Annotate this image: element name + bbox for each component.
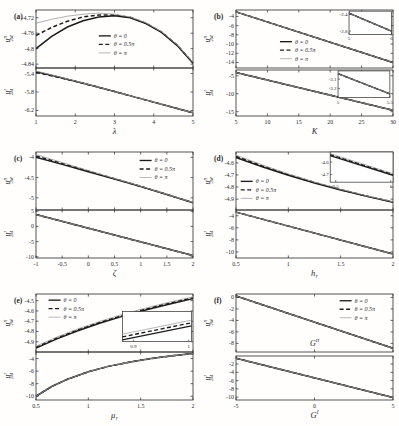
tick-label: 1 bbox=[87, 403, 90, 409]
tick-label: 5 bbox=[192, 119, 195, 125]
tick-label: -4.5 bbox=[25, 298, 35, 304]
legend-label: θ = 0 bbox=[64, 297, 77, 303]
tick-label: -4.6 bbox=[25, 308, 35, 314]
series-solid bbox=[36, 354, 193, 397]
subplot: -2-4-6-8-10-505uI2MGI bbox=[203, 356, 395, 420]
tick-label: -10 bbox=[226, 91, 234, 97]
axis-label: μr bbox=[110, 410, 119, 422]
tick-label: 0.5 bbox=[333, 184, 340, 189]
tick-label: 15 bbox=[296, 119, 302, 125]
tick-label: 2 bbox=[392, 261, 395, 267]
tick-label: 0.5 bbox=[232, 261, 240, 267]
tick-label: -0.5 bbox=[57, 261, 67, 267]
tick-label: -6 bbox=[229, 225, 234, 231]
tick-label: -2.8 bbox=[340, 29, 348, 34]
tick-label: -8 bbox=[229, 237, 234, 243]
panel-e: -4.5-4.6-4.7-4.8-4.9uII2M0.91θ = 0θ = 0.… bbox=[0, 284, 199, 426]
tick-label: -6 bbox=[229, 329, 234, 335]
panel-d-svg: -4.6-4.7-4.8-4.9uII2M0.51-4.6-4.7θ = 0θ … bbox=[200, 142, 399, 284]
tick-label: 0.5 bbox=[111, 261, 119, 267]
axis-label: hr bbox=[311, 268, 319, 280]
series-thin bbox=[36, 215, 193, 256]
legend-label: θ = 0.5π bbox=[114, 41, 135, 47]
subplot: -4-4.5-5uII2Mθ = 0θ = 0.5πθ = π bbox=[3, 152, 193, 210]
tick-label: 20 bbox=[327, 119, 333, 125]
legend: θ = 0θ = 0.5πθ = π bbox=[340, 298, 376, 321]
legend: θ = 0θ = 0.5πθ = π bbox=[140, 157, 176, 180]
tick-label: -2.4 bbox=[340, 12, 348, 17]
panel-a-svg: -4.72-4.76-4.8-4.84uII2Mθ = 0θ = 0.5πθ =… bbox=[0, 0, 199, 142]
tick-label: -10 bbox=[226, 394, 234, 400]
tick-label: 1.5 bbox=[163, 261, 171, 267]
legend-label: θ = 0 bbox=[155, 157, 168, 163]
panel-f-svg: 0-2-4-6-8uII2Mθ = 0θ = 0.5πθ = πGII-2-4-… bbox=[200, 284, 399, 426]
tick-label: -4.5 bbox=[25, 175, 35, 181]
panel-a: -4.72-4.76-4.8-4.84uII2Mθ = 0θ = 0.5πθ =… bbox=[0, 0, 199, 142]
tick-label: 30 bbox=[390, 119, 396, 125]
tick-label: 2 bbox=[192, 403, 195, 409]
tick-label: -4 bbox=[229, 13, 234, 19]
legend-label: θ = π bbox=[256, 195, 270, 201]
panel-c-svg: -4-4.5-5uII2Mθ = 0θ = 0.5πθ = π50-5-10-1… bbox=[0, 142, 199, 284]
tick-label: 5 bbox=[392, 403, 395, 409]
legend: θ = 0θ = 0.5πθ = π bbox=[241, 178, 277, 201]
tick-label: 5 bbox=[235, 119, 238, 125]
tick-label: -3.1 bbox=[329, 77, 337, 82]
tick-label: -5 bbox=[29, 195, 34, 201]
tick-label: -4.8 bbox=[25, 46, 35, 52]
tick-label: 1 bbox=[390, 184, 393, 189]
axis-label: ζ bbox=[113, 268, 117, 278]
legend: θ = 0θ = 0.5πθ = π bbox=[49, 297, 85, 320]
tick-label: -4.7 bbox=[225, 172, 235, 178]
tick-label: 5 bbox=[348, 36, 351, 41]
legend-label: θ = π bbox=[155, 174, 169, 180]
axis-label: uI2M bbox=[203, 374, 215, 381]
tick-label: -4.8 bbox=[225, 184, 235, 190]
tick-label: 0 bbox=[31, 223, 34, 229]
subplot: 0-2-4-6-8uII2Mθ = 0θ = 0.5πθ = πGII bbox=[203, 294, 393, 352]
tick-label: -4 bbox=[29, 356, 34, 362]
panel-b-svg: -4-6-8-10-12-14uII2M56-2.4-2.8θ = 0θ = 0… bbox=[200, 0, 399, 142]
tick-label: -6 bbox=[229, 378, 234, 384]
tick-label: 0 bbox=[87, 261, 90, 267]
tick-label: -8 bbox=[29, 381, 34, 387]
tick-label: -10 bbox=[226, 249, 234, 255]
tick-label: -15 bbox=[226, 109, 234, 115]
plot-frame bbox=[36, 152, 193, 210]
panel-label: (f) bbox=[214, 296, 222, 305]
tick-label: 1.5 bbox=[137, 403, 145, 409]
tick-label: -14 bbox=[226, 59, 234, 65]
tick-label: -1 bbox=[34, 261, 39, 267]
subplot: -4.6-4.7-4.8-4.9uII2M0.51-4.6-4.7θ = 0θ … bbox=[203, 152, 393, 210]
plot-frame bbox=[236, 210, 393, 258]
tick-label: 25 bbox=[359, 119, 365, 125]
legend-label: θ = π bbox=[114, 50, 128, 56]
tick-label: -8 bbox=[229, 386, 234, 392]
legend-label: θ = 0.5π bbox=[64, 306, 85, 312]
axis-label: uII2M bbox=[3, 318, 15, 326]
tick-label: -4.8 bbox=[25, 328, 35, 334]
tick-label: 5.5 bbox=[387, 100, 394, 105]
tick-label: -3.2 bbox=[329, 86, 337, 91]
axis-label: GI bbox=[311, 409, 319, 420]
tick-label: -8 bbox=[229, 340, 234, 346]
panel-d: -4.6-4.7-4.8-4.9uII2M0.51-4.6-4.7θ = 0θ … bbox=[200, 142, 399, 284]
axis-label: uII2M bbox=[203, 176, 215, 184]
axis-label: uI2M bbox=[203, 230, 215, 237]
tick-label: 1 bbox=[35, 119, 38, 125]
legend-label: θ = 0 bbox=[256, 178, 269, 184]
inset: 55.5-3.1-3.2 bbox=[329, 71, 394, 105]
axis-label: uII2M bbox=[203, 318, 215, 326]
inset: 56-2.4-2.8 bbox=[340, 11, 394, 41]
axis-label: uII2M bbox=[3, 176, 15, 184]
panel-c: -4-4.5-5uII2Mθ = 0θ = 0.5πθ = π50-5-10-1… bbox=[0, 142, 199, 284]
tick-label: 0 bbox=[231, 294, 234, 300]
tick-label: -4 bbox=[229, 369, 234, 375]
axis-label: uII2M bbox=[3, 34, 15, 42]
tick-label: 3 bbox=[113, 119, 116, 125]
tick-label: -10 bbox=[226, 41, 234, 47]
series-thin bbox=[36, 354, 193, 397]
subplot: 50-5-10-1-0.500.511.52uI2Mζ bbox=[3, 208, 195, 277]
tick-label: -5.8 bbox=[25, 89, 35, 95]
tick-label: 1 bbox=[139, 261, 142, 267]
